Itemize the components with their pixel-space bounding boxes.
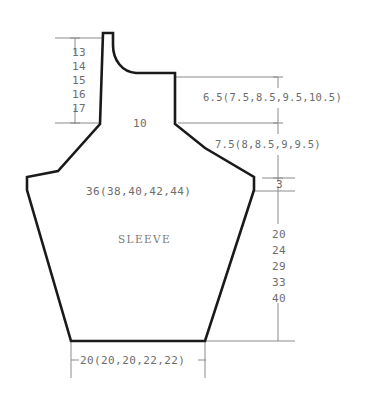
cap-height-size-2: 14 (72, 60, 86, 73)
lower-cap-height-label: 7.5(8,8.5,9,9.5) (215, 138, 321, 150)
schematic-canvas: 13 14 15 16 17 10 6.5(7.5,8.5,9.5,10.5) … (0, 0, 383, 406)
piece-name-label: SLEEVE (118, 233, 171, 245)
lower-cap-dimension-group (262, 123, 295, 178)
sleeve-length-size-4: 33 (272, 276, 286, 289)
sleeve-length-size-3: 29 (272, 260, 286, 273)
sleeve-schematic-diagram: 13 14 15 16 17 10 6.5(7.5,8.5,9.5,10.5) … (0, 0, 383, 406)
cap-height-size-5: 17 (72, 102, 86, 115)
upper-arm-width-label: 36(38,40,42,44) (86, 185, 191, 198)
sleeve-length-size-5: 40 (272, 292, 286, 305)
upper-cap-height-label: 6.5(7.5,8.5,9.5,10.5) (203, 91, 342, 103)
underarm-step-label: 3 (276, 178, 283, 191)
cap-height-size-4: 16 (72, 88, 86, 101)
cap-height-size-1: 13 (72, 46, 86, 59)
cuff-width-label: 20(20,20,22,22) (80, 354, 185, 367)
sleeve-length-size-2: 24 (272, 244, 286, 257)
sleeve-length-size-1: 20 (272, 228, 286, 241)
cap-top-width-label: 10 (133, 117, 147, 130)
cap-height-size-3: 15 (72, 74, 86, 87)
